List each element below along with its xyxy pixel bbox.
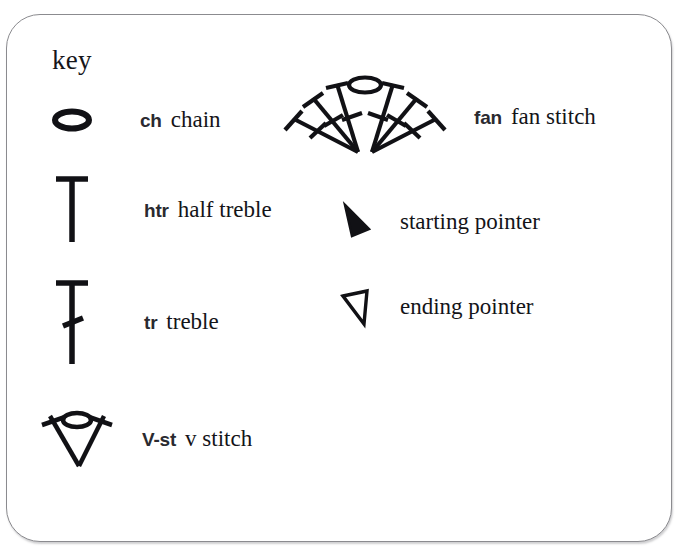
- legend-row-ending-pointer: ending pointer: [338, 285, 534, 329]
- ending-pointer-symbol: [338, 285, 378, 329]
- chain-symbol: [50, 100, 98, 140]
- fan-stitch-abbr: fan: [474, 107, 502, 128]
- starting-pointer-label: starting pointer: [400, 209, 540, 235]
- fan-stitch-description: fan stitch: [511, 104, 596, 129]
- fan-stitch-label: fanfan stitch: [474, 104, 596, 130]
- legend-row-chain: chchain: [50, 100, 221, 140]
- chain-description: chain: [171, 107, 221, 132]
- treble-abbr: tr: [144, 312, 157, 333]
- page-title: key: [52, 47, 92, 74]
- legend-row-half-treble: htrhalf treble: [50, 172, 272, 248]
- fan-stitch-symbol: [280, 72, 450, 162]
- ending-pointer-label: ending pointer: [400, 294, 534, 320]
- v-stitch-label: V-stv stitch: [142, 426, 252, 452]
- treble-description: treble: [166, 309, 218, 334]
- v-stitch-symbol: [34, 406, 120, 472]
- key-diagram-page: key chchain htrhalf treble: [0, 0, 699, 559]
- legend-row-treble: trtreble: [50, 276, 219, 368]
- v-stitch-description: v stitch: [185, 426, 252, 451]
- legend-row-starting-pointer: starting pointer: [338, 200, 540, 244]
- treble-symbol: [50, 276, 94, 368]
- treble-label: trtreble: [144, 309, 219, 335]
- starting-pointer-symbol: [338, 200, 378, 244]
- half-treble-symbol: [50, 172, 94, 248]
- v-stitch-abbr: V-st: [142, 429, 176, 450]
- legend-row-fan-stitch: fanfan stitch: [280, 72, 596, 162]
- legend-row-v-stitch: V-stv stitch: [34, 406, 252, 472]
- half-treble-label: htrhalf treble: [144, 197, 272, 223]
- half-treble-abbr: htr: [144, 200, 169, 221]
- chain-abbr: ch: [140, 110, 162, 131]
- chain-label: chchain: [140, 107, 221, 133]
- half-treble-description: half treble: [178, 197, 272, 222]
